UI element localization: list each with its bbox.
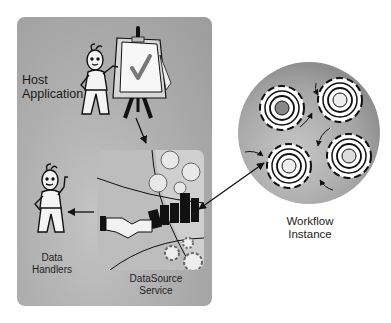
workflow-label-line1: Workflow xyxy=(270,215,350,228)
data-handlers-label: Data Handlers xyxy=(28,252,76,275)
host-label-line1: Host xyxy=(22,73,83,87)
presenter-figure-icon xyxy=(81,44,118,114)
workflow-instance-circle xyxy=(238,62,380,204)
datasource-service-icon xyxy=(97,150,204,271)
host-application-label: Host Application xyxy=(22,73,83,102)
host-label-line2: Application xyxy=(22,87,83,101)
datasource-service-label: DataSource Service xyxy=(110,273,202,296)
datasource-label-line2: Service xyxy=(110,285,202,297)
handlers-label-line2: Handlers xyxy=(28,264,76,276)
easel-checkmark-icon xyxy=(113,28,171,118)
arrow-host-to-datasource xyxy=(136,118,146,143)
arrow-datasource-workflow xyxy=(199,163,264,209)
data-handler-figure-icon xyxy=(35,164,68,232)
datasource-label-line1: DataSource xyxy=(110,273,202,285)
workflow-label-line2: Instance xyxy=(270,228,350,241)
handlers-label-line1: Data xyxy=(28,252,76,264)
workflow-instance-label: Workflow Instance xyxy=(270,215,350,241)
